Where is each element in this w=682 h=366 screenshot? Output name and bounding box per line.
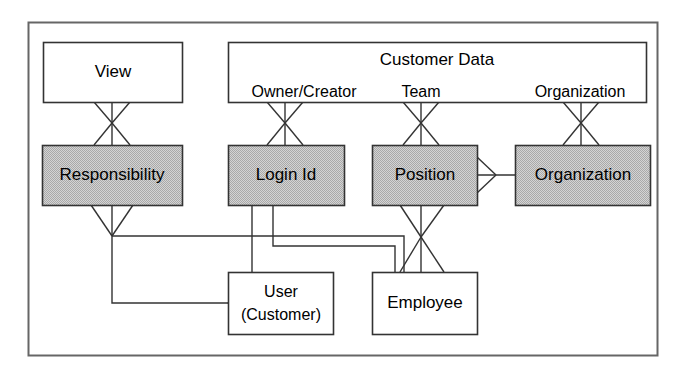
entity-organization-label: Organization (535, 165, 631, 184)
entity-responsibility-label: Responsibility (60, 165, 165, 184)
entity-user-label-line2: (Customer) (241, 306, 321, 323)
er-diagram: Customer Data Owner/Creator Team Organiz… (0, 0, 682, 366)
port-label-team: Team (401, 83, 440, 100)
port-label-owner-creator: Owner/Creator (252, 83, 358, 100)
diagram-canvas: Customer Data Owner/Creator Team Organiz… (0, 0, 682, 366)
port-label-organization: Organization (535, 83, 626, 100)
entity-login-id-label: Login Id (256, 165, 317, 184)
entity-position-label: Position (395, 165, 455, 184)
entity-user[interactable] (229, 273, 334, 335)
entity-employee-label: Employee (387, 293, 463, 312)
entity-user-label-line1: User (264, 283, 298, 300)
group-customer-data-title: Customer Data (380, 50, 495, 69)
entity-view-label: View (95, 62, 132, 81)
